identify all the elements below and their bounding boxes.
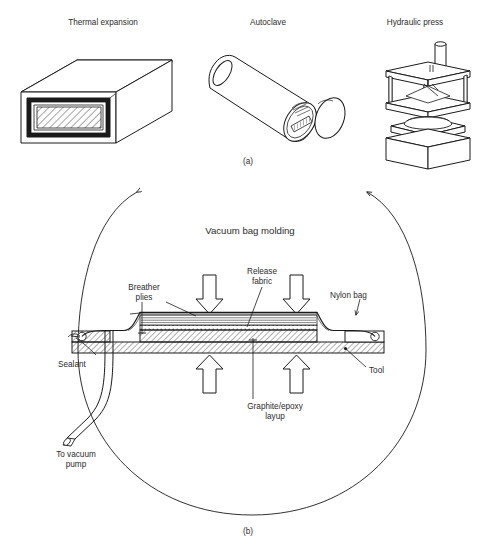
label-release-fabric: Release fabric [247,267,277,287]
label-autoclave: Autoclave [250,18,286,28]
pressure-arrow-up-right [283,355,310,393]
caption-part-b: (b) [243,527,253,536]
label-thermal-expansion: Thermal expansion [68,18,138,28]
thermal-expansion-mold-illustration [21,60,172,143]
pressure-arrow-down-right [283,275,310,314]
pressure-arrow-down-left [196,275,223,314]
label-to-vacuum-pump: To vacuum pump [56,450,96,470]
autoclave-illustration [209,55,350,147]
label-hydraulic-press: Hydraulic press [387,18,443,28]
label-sealant: Sealant [58,360,86,370]
caption-part-a: (a) [243,157,253,166]
title-vacuum-bag-molding: Vacuum bag molding [205,226,294,236]
pressure-arrow-up-left [196,355,223,393]
label-graphite-epoxy-layup: Graphite/epoxy layup [247,402,303,422]
label-breather-plies: Breather plies [128,283,159,303]
tool-plate [72,342,384,353]
graphite-epoxy-layup-slab [140,330,317,342]
label-tool: Tool [369,366,384,376]
hydraulic-press-illustration [386,42,470,169]
label-nylon-bag: Nylon bag [330,291,367,301]
release-fabric-layer [140,325,317,330]
vacuum-bag-layup-cross-section [62,312,384,446]
